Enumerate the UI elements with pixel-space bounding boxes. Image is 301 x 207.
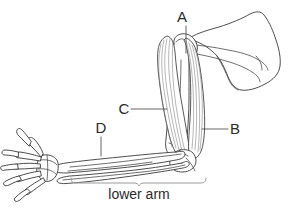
label-a: A (177, 8, 187, 25)
index-metacarpal (15, 152, 41, 161)
arm-anatomy-illustration: A B C D lower arm (0, 0, 301, 207)
index-phalanx (2, 150, 18, 157)
lower-arm-label: lower arm (108, 186, 169, 202)
label-b: B (230, 120, 240, 137)
ring-phalanx (4, 176, 21, 186)
thumb-phalanx (17, 129, 31, 147)
little-phalanx (14, 189, 30, 201)
middle-phalanx (1, 164, 18, 170)
anatomy-diagram: A B C D lower arm (0, 0, 301, 207)
hand-skeleton-group (1, 129, 59, 202)
label-d: D (96, 119, 107, 136)
label-c: C (119, 100, 130, 117)
forearm-bones-group (54, 151, 189, 183)
